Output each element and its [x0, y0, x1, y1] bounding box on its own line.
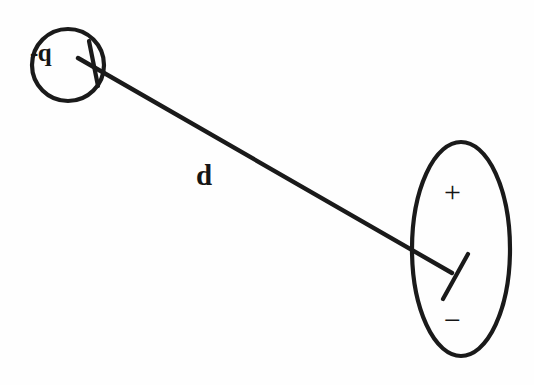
distance-label: d: [196, 161, 212, 190]
dipole-tick-mark: [443, 254, 468, 299]
dipole-positive-label: +: [444, 177, 461, 207]
figure-canvas: -q d + −: [0, 0, 534, 385]
dipole-ellipse: [412, 142, 510, 356]
dipole-negative-label: −: [444, 305, 461, 335]
negative-charge-label: -q: [30, 40, 51, 65]
separation-line: [78, 58, 452, 273]
